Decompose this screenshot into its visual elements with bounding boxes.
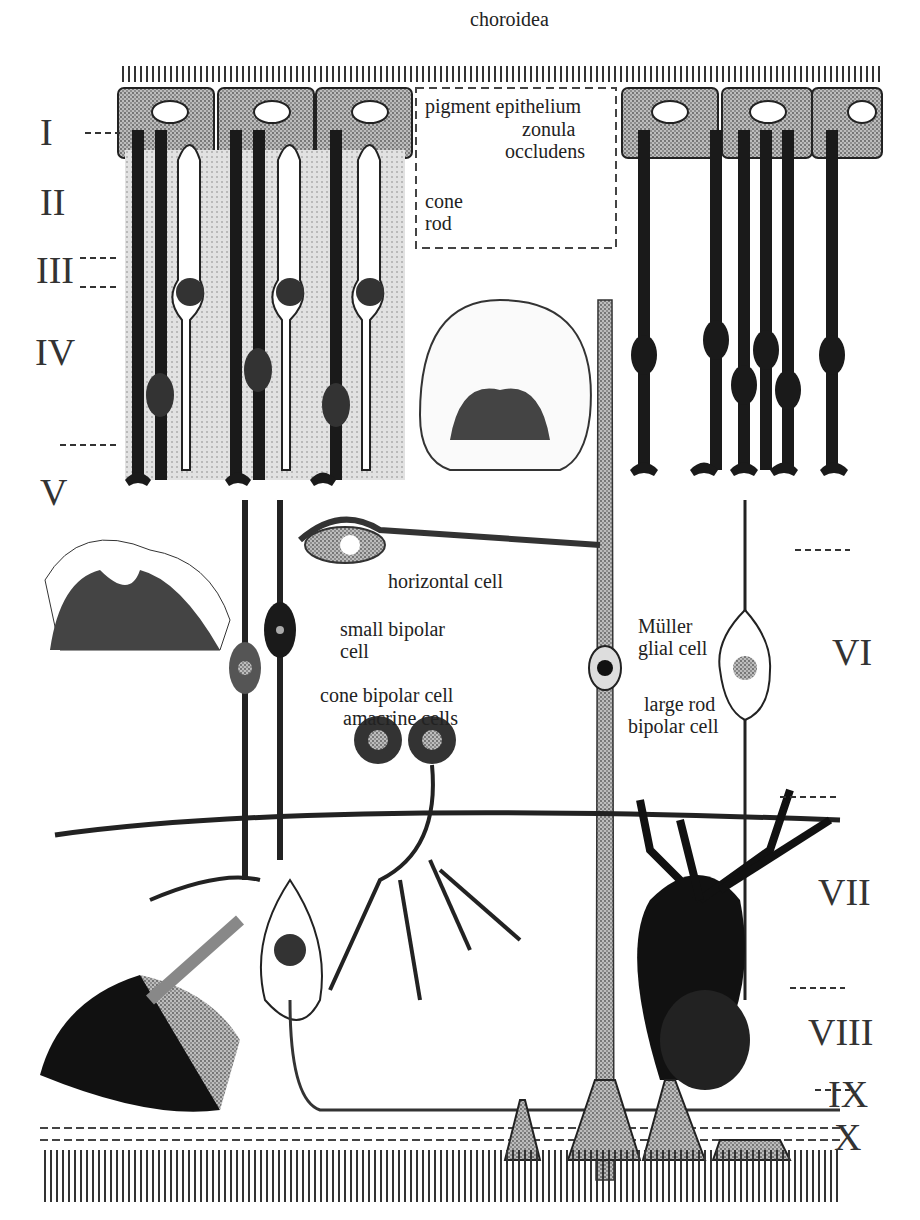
label-muller: Müller (638, 615, 692, 637)
muller-glial-cell (596, 300, 614, 1180)
layer-VII: VII (818, 870, 871, 914)
photoreceptors-left (125, 130, 405, 480)
layer-II: II (40, 180, 65, 224)
retina-diagram: choroidea pigment epithelium zonula occl… (0, 0, 920, 1220)
choroidea-band (120, 66, 880, 82)
label-small-bipolar-cell: cell (340, 640, 369, 662)
label-cone: cone (425, 190, 463, 212)
photoreceptors-right (630, 130, 848, 476)
synapse-inset (420, 300, 591, 470)
label-glial-cell: glial cell (638, 637, 707, 659)
label-zonula: zonula (522, 118, 575, 140)
diagram-drawing (0, 0, 920, 1220)
layer-III: III (36, 248, 74, 292)
label-occludens: occludens (505, 140, 585, 162)
layer-VI: VI (832, 630, 872, 674)
label-cone-bipolar: cone bipolar cell (320, 684, 453, 706)
layer-IX: IX (828, 1072, 868, 1116)
label-choroidea: choroidea (470, 8, 549, 30)
label-amacrine: amacrine cells (343, 707, 458, 729)
label-small-bipolar: small bipolar (340, 618, 445, 640)
bottom-band (40, 1150, 840, 1202)
layer-V: V (40, 470, 67, 514)
label-horizontal-cell: horizontal cell (388, 570, 503, 592)
label-rod: rod (425, 212, 452, 234)
layer-IV: IV (35, 330, 75, 374)
label-bipolar-cell: bipolar cell (628, 715, 719, 737)
label-large-rod: large rod (644, 693, 715, 715)
layer-VIII: VIII (808, 1010, 873, 1054)
label-pigment-epithelium: pigment epithelium (425, 95, 581, 117)
layer-X: X (834, 1115, 861, 1159)
layer-I: I (40, 110, 53, 154)
